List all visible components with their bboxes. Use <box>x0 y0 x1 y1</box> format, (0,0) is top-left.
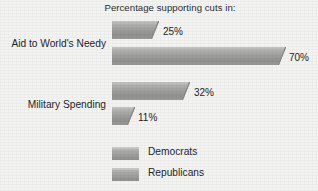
swatch-bevel-top <box>112 168 139 170</box>
bar-bevel-top <box>112 82 190 85</box>
value-label-aid-democrats: 25% <box>163 26 183 37</box>
bar-aid-democrats <box>112 21 159 39</box>
legend-swatch-republicans <box>112 168 139 181</box>
category-label-aid-to-worlds-needy: Aid to World's Needy <box>0 38 106 49</box>
bar-aid-republicans <box>112 47 286 65</box>
value-label-military-democrats: 32% <box>194 87 214 98</box>
category-label-military-spending: Military Spending <box>0 99 106 110</box>
swatch-bevel-top <box>112 147 139 149</box>
value-label-military-republicans: 11% <box>138 112 157 123</box>
bar-bevel-top <box>112 47 286 50</box>
bar-bevel-top <box>112 21 159 24</box>
legend-label-republicans: Republicans <box>148 167 204 178</box>
legend-swatch-democrats <box>112 147 139 160</box>
bar-military-republicans <box>112 107 135 125</box>
bar-bevel-top <box>112 107 135 110</box>
bar-chart: Percentage supporting cuts in: Aid to Wo… <box>0 0 318 191</box>
bar-military-democrats <box>112 82 190 100</box>
chart-title: Percentage supporting cuts in: <box>0 2 318 13</box>
value-label-aid-republicans: 70% <box>289 52 309 63</box>
legend-label-democrats: Democrats <box>148 146 197 157</box>
